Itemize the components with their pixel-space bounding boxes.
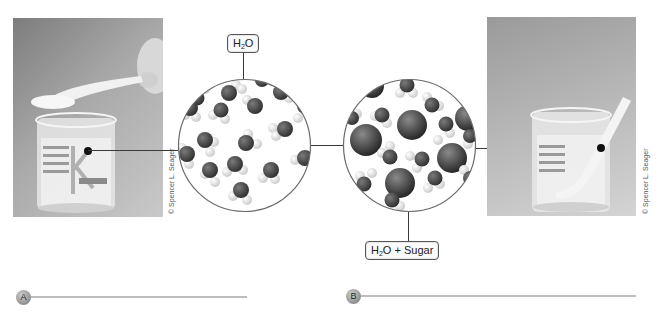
photo-credit-right: © Spencer L. Seager [642,149,649,214]
photo-water-beaker-with-spoon [13,18,163,217]
beaker-stirring-rod-illustration [487,17,636,216]
connector-line-between-circles [311,145,343,146]
section-rule-a [31,296,247,298]
section-rule-b [361,295,636,297]
label-sugar-water-tail: O + Sugar [383,244,433,256]
section-marker-a: A [16,290,31,305]
molecular-view-water [177,78,312,213]
molecular-view-sugar-water [342,78,477,213]
beaker-sugar-spoon-illustration [13,18,163,217]
label-water-h: H [233,37,241,49]
connector-line-water-label [243,52,244,79]
label-sugar-water-h: H [371,244,379,256]
label-water: H2O [227,34,259,53]
connector-line-left-photo [88,150,178,151]
photo-sugar-water-beaker-with-rod [487,17,636,216]
section-marker-b: B [346,289,361,304]
label-water-o: O [245,37,254,49]
photo-credit-left: © Spencer L. Seager [168,149,175,214]
label-sugar-water: H2O + Sugar [365,241,439,260]
connector-line-sugar-water-label [408,212,409,241]
